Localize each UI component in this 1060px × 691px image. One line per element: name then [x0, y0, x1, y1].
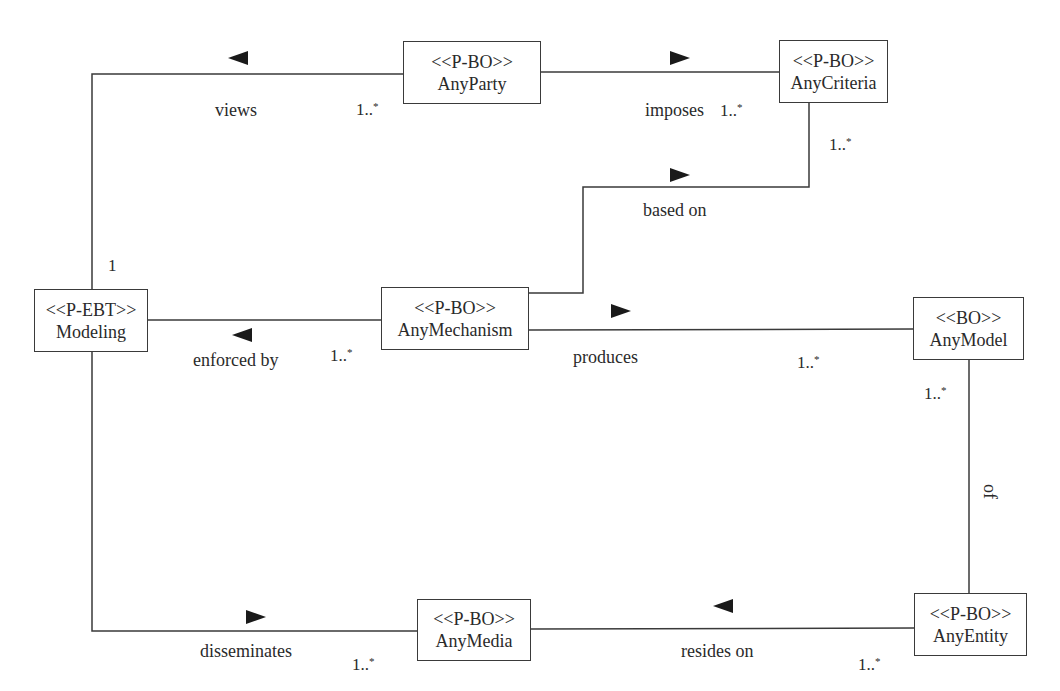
class-any-party[interactable]: <<P-BO>> AnyParty — [403, 41, 541, 104]
stereotype: <<P-BO>> — [433, 608, 515, 630]
class-any-model[interactable]: <<BO>> AnyModel — [913, 297, 1024, 360]
class-any-entity[interactable]: <<P-BO>> AnyEntity — [914, 593, 1027, 656]
views-arrow-left-icon — [228, 51, 248, 65]
multiplicity-produces-model: 1..* — [797, 350, 820, 372]
multiplicity-views-modeling: 1 — [108, 257, 117, 275]
imposes-arrow-right-icon — [670, 51, 690, 65]
multiplicity-resides-entity: 1..* — [858, 652, 881, 674]
multiplicity-enforced-mechanism: 1..* — [330, 343, 353, 365]
based-on-arrow-right-icon — [670, 168, 690, 182]
resides-on-arrow-left-icon — [713, 599, 733, 613]
class-name: Modeling — [56, 321, 126, 343]
label-enforced-by: enforced by — [193, 350, 278, 370]
class-name: AnyMedia — [436, 630, 513, 652]
class-any-mechanism[interactable]: <<P-BO>> AnyMechanism — [381, 287, 529, 350]
stereotype: <<P-BO>> — [431, 51, 513, 73]
uml-diagram: <<P-BO>> AnyParty <<P-BO>> AnyCriteria <… — [0, 0, 1060, 691]
produces-arrow-right-icon — [611, 304, 631, 318]
multiplicity-based-on-criteria: 1..* — [829, 132, 852, 154]
class-name: AnyCriteria — [791, 72, 877, 94]
class-any-criteria[interactable]: <<P-BO>> AnyCriteria — [779, 40, 888, 103]
class-modeling[interactable]: <<P-EBT>> Modeling — [34, 289, 148, 352]
label-disseminates: disseminates — [200, 641, 292, 661]
stereotype: <<BO>> — [936, 307, 1002, 329]
class-name: AnyParty — [438, 73, 507, 95]
class-name: AnyModel — [930, 329, 1008, 351]
stereotype: <<P-EBT>> — [46, 299, 137, 321]
produces-connector — [529, 329, 913, 330]
label-resides-on: resides on — [681, 641, 753, 661]
disseminates-connector — [92, 352, 417, 631]
class-name: AnyEntity — [933, 625, 1008, 647]
disseminates-arrow-right-icon — [246, 610, 266, 624]
label-produces: produces — [573, 347, 638, 367]
multiplicity-of-model: 1..* — [924, 381, 947, 403]
stereotype: <<P-BO>> — [930, 603, 1012, 625]
enforced-by-arrow-left-icon — [232, 328, 252, 342]
stereotype: <<P-BO>> — [414, 297, 496, 319]
multiplicity-imposes-criteria: 1..* — [720, 98, 743, 120]
stereotype: <<P-BO>> — [793, 50, 875, 72]
class-name: AnyMechanism — [398, 319, 513, 341]
label-based-on: based on — [643, 200, 706, 220]
resides-on-connector — [531, 628, 914, 629]
label-of: of — [980, 484, 1000, 499]
label-views: views — [215, 100, 257, 120]
multiplicity-views-party: 1..* — [356, 97, 379, 119]
class-any-media[interactable]: <<P-BO>> AnyMedia — [417, 599, 531, 661]
label-imposes: imposes — [645, 100, 704, 120]
multiplicity-disseminates-media: 1..* — [352, 652, 375, 674]
based-on-connector — [529, 103, 809, 293]
